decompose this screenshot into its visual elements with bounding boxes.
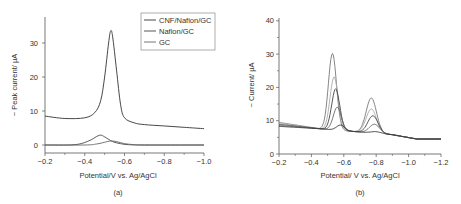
series-line: [279, 107, 441, 139]
y-tick-label: 0: [34, 141, 38, 150]
panel-b-xlabel: Potential/ V vs. Ag/AgCl: [320, 171, 400, 180]
panel-b-x-ticks: −0.2−0.4−0.6−0.8−1.0−1.2: [272, 154, 449, 167]
legend-item-gc: GC: [159, 38, 171, 47]
x-tick-label: −0.8: [369, 158, 384, 167]
x-tick-label: −0.2: [272, 158, 287, 167]
panel-b-label: (b): [355, 188, 365, 197]
y-tick-label: 30: [30, 39, 38, 48]
panel-b-ylabel: − Current/ µA: [247, 63, 256, 108]
x-tick-label: −1.0: [401, 158, 416, 167]
panel-a-y-ticks: 0102030: [30, 39, 45, 150]
legend: CNF/Nafion/GC Nafion/GC GC: [141, 13, 215, 50]
panel-a: 0102030 −0.2−0.4−0.6−0.8−1.0 CNF/Nafion/…: [10, 13, 215, 197]
panel-a-ylabel: − Peak current/ µA: [10, 54, 19, 116]
panel-a-x-ticks: −0.2−0.4−0.6−0.8−1.0: [38, 153, 212, 166]
panel-a-xlabel: Potential/V vs. Ag/AgCl: [79, 171, 156, 180]
series-line: [279, 77, 441, 139]
panel-b-series: [279, 54, 441, 140]
x-tick-label: −0.2: [38, 157, 53, 166]
panel-b-y-ticks: 010203040: [266, 16, 279, 158]
x-tick-label: −0.6: [117, 157, 132, 166]
y-tick-label: 10: [266, 116, 274, 125]
figure: 0102030 −0.2−0.4−0.6−0.8−1.0 CNF/Nafion/…: [0, 0, 461, 204]
x-tick-label: −0.6: [336, 158, 351, 167]
legend-item-cnf: CNF/Nafion/GC: [159, 16, 212, 25]
panel-a-label: (a): [113, 188, 123, 197]
panel-b: 010203040 −0.2−0.4−0.6−0.8−1.0−1.2 − Cur…: [247, 16, 448, 197]
x-tick-label: −0.4: [77, 157, 92, 166]
y-tick-label: 30: [266, 50, 274, 59]
y-tick-label: 20: [30, 73, 38, 82]
y-tick-label: 40: [266, 16, 274, 25]
x-tick-label: −0.8: [157, 157, 172, 166]
x-tick-label: −1.0: [197, 157, 212, 166]
x-tick-label: −0.4: [304, 158, 319, 167]
x-tick-label: −1.2: [434, 158, 449, 167]
y-tick-label: 20: [266, 83, 274, 92]
legend-item-nafion: Nafion/GC: [159, 27, 195, 36]
y-tick-label: 10: [30, 107, 38, 116]
